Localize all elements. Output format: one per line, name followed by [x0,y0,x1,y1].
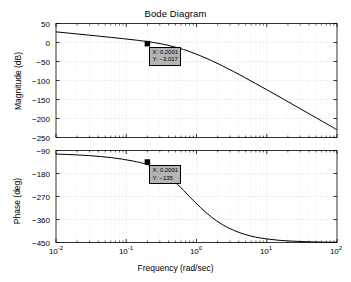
magnitude-datatip-y: Y: −3.017 [152,56,178,64]
phase-gridlines [56,151,337,243]
phase-datatip-marker[interactable] [145,159,151,165]
bode-diagram-figure: Bode Diagram Magnitude (dB) Phase (deg) … [0,0,351,282]
phase-datatip-y: Y: −135 [152,175,178,183]
magnitude-datatip-x: X: 0.2001 [152,49,178,57]
magnitude-datatip[interactable]: X: 0.2001 Y: −3.017 [149,47,181,66]
magnitude-gridlines [56,24,337,138]
phase-datatip-x: X: 0.2001 [152,167,178,175]
plot-canvas [0,0,351,282]
phase-datatip[interactable]: X: 0.2001 Y: −135 [149,165,181,184]
magnitude-datatip-marker[interactable] [145,41,151,47]
